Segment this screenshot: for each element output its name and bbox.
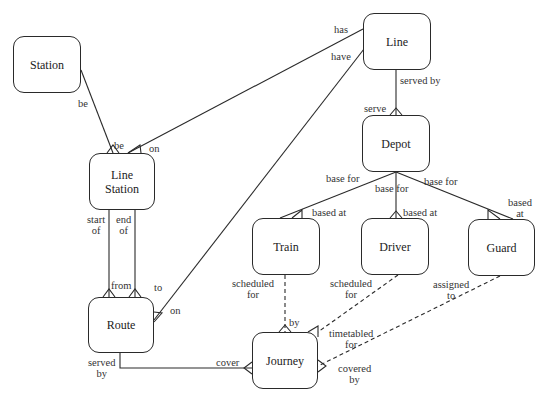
label-train-based-at: based at	[312, 207, 346, 218]
label-ls-start-of: start of	[87, 214, 105, 236]
label-depot-base-for-3: base for	[424, 176, 458, 187]
crowsfoot-icon	[154, 312, 162, 322]
label-train-scheduled-for: scheduled for	[232, 278, 274, 300]
entity-line[interactable]: Line	[363, 13, 431, 70]
label-ls-be: be	[114, 140, 124, 151]
entity-line-station[interactable]: Line Station	[89, 153, 155, 210]
label-depot-base-for-2: base for	[375, 183, 409, 194]
label-guard-based-at: based at	[508, 197, 532, 219]
label-station-be: be	[78, 98, 88, 109]
entity-journey[interactable]: Journey	[252, 332, 318, 389]
label-line-served-by: served by	[400, 75, 441, 86]
label-route-from: from	[111, 280, 131, 291]
label-route-served-by: served by	[88, 357, 115, 379]
entity-driver[interactable]: Driver	[361, 218, 429, 275]
label-line-has: has	[334, 24, 348, 35]
entity-station[interactable]: Station	[13, 36, 81, 93]
label-journey-timetabled-for: timetabled for	[329, 328, 373, 350]
rel-line-linestation	[128, 29, 363, 153]
label-driver-scheduled-for: scheduled for	[330, 278, 372, 300]
label-journey-by: by	[289, 317, 300, 328]
entity-train[interactable]: Train	[252, 218, 320, 275]
label-depot-serve: serve	[364, 103, 386, 114]
label-journey-cover: cover	[216, 357, 239, 368]
rel-station-linestation	[81, 70, 113, 153]
label-guard-assigned-to: assigned to	[433, 279, 469, 301]
label-depot-base-for-1: base for	[326, 173, 360, 184]
entity-guard[interactable]: Guard	[468, 219, 535, 276]
label-driver-based-at: based at	[403, 207, 437, 218]
label-journey-covered-by: covered by	[338, 363, 371, 385]
label-route-to: to	[154, 282, 162, 293]
crowsfoot-icon	[128, 145, 141, 153]
label-ls-on: on	[149, 143, 160, 154]
label-route-on: on	[170, 305, 181, 316]
label-line-have: have	[331, 51, 351, 62]
entity-depot[interactable]: Depot	[362, 115, 430, 172]
label-ls-end-of: end of	[116, 214, 131, 236]
entity-route[interactable]: Route	[88, 297, 154, 353]
crowsfoot-icon	[318, 360, 326, 372]
